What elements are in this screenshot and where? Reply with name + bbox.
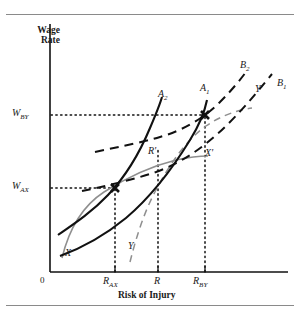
origin-label: 0 [40, 276, 45, 285]
isoprofit-curve-b1 [82, 74, 272, 191]
curve-label-x-prime: X' [205, 148, 213, 159]
hedonic-wage-risk-figure: WageRate Risk of Injury 0 WBY WAX RAX R … [0, 0, 300, 317]
offer-curve-xx-prime [62, 156, 208, 258]
curve-label-b1-sub: 1 [283, 83, 287, 91]
axes-group [50, 24, 288, 272]
x-axis-title: Risk of Injury [118, 291, 176, 301]
x-tick-rby-sub: BY [199, 281, 207, 289]
diagram-canvas [0, 0, 300, 317]
curve-label-a2: A2 [158, 89, 168, 102]
indifference-curve-a2 [58, 97, 162, 235]
y-tick-wax-sub: AX [20, 186, 29, 194]
curve-label-a1-sub: 1 [206, 88, 210, 96]
curve-label-b2-sub: 2 [246, 65, 250, 73]
curve-label-r-prime: R' [148, 146, 156, 157]
curve-label-y-prime: Y' [255, 84, 263, 95]
curve-label-y: Y [128, 241, 134, 252]
curve-label-x: X [65, 248, 71, 259]
curve-label-a2-sub: 2 [164, 94, 168, 102]
curve-label-b2: B2 [240, 60, 250, 73]
x-axis-ticks [115, 266, 205, 272]
x-tick-label-r: R [154, 276, 160, 287]
y-axis-title: WageRate [18, 26, 60, 46]
y-axis-title-line1: WageRate [37, 25, 60, 45]
y-tick-label-wby: WBY [12, 108, 29, 121]
y-tick-label-wax: WAX [12, 181, 29, 194]
x-tick-rax-sub: AX [109, 281, 118, 289]
curve-label-b1: B1 [277, 78, 287, 91]
y-tick-wby-sub: BY [20, 113, 28, 121]
isoprofit-curve-b2 [95, 72, 246, 152]
curve-label-a1: A1 [200, 83, 210, 96]
x-tick-label-rax: RAX [103, 276, 118, 289]
x-tick-r-base: R [154, 275, 160, 286]
x-tick-label-rby: RBY [193, 276, 207, 289]
